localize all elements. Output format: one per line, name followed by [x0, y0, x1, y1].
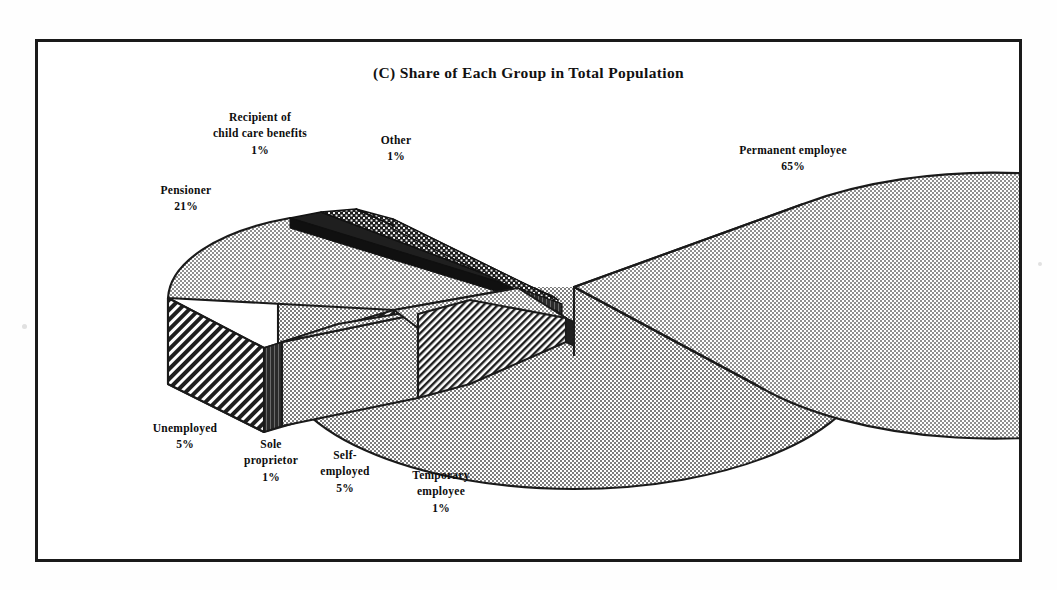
label-recipient-child-care: Recipient of child care benefits 1% [160, 109, 360, 158]
slice-sole-proprietor [264, 342, 282, 432]
scan-speck [22, 324, 27, 329]
label-other: Other 1% [336, 132, 456, 165]
label-permanent-employee: Permanent employee 65% [678, 142, 908, 175]
label-temporary-employee: Temporary employee 1% [376, 467, 506, 516]
chart-frame: (C) Share of Each Group in Total Populat… [35, 39, 1022, 562]
page-canvas: (C) Share of Each Group in Total Populat… [0, 0, 1057, 590]
label-pensioner: Pensioner 21% [121, 182, 251, 215]
scan-speck [1038, 262, 1042, 266]
